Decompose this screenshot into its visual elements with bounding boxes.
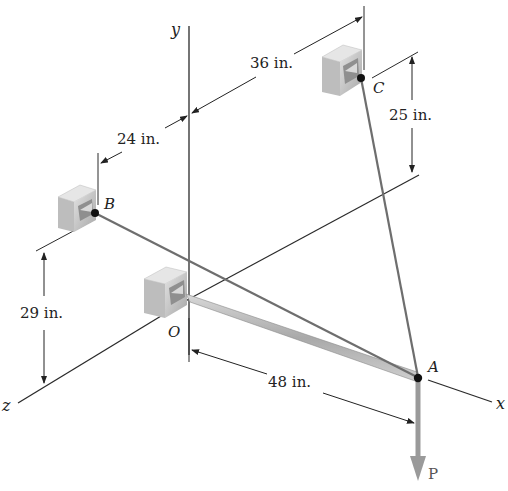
x-axis [428, 380, 492, 402]
point-a [414, 374, 422, 382]
dim-label-29: 29 in. [20, 306, 63, 321]
dim-36-line-a [192, 77, 256, 113]
dim-label-48: 48 in. [268, 375, 311, 390]
cable-ab [95, 213, 417, 377]
ext-line-c-horiz [372, 52, 418, 78]
axis-label-z: z [2, 398, 10, 414]
point-c [357, 74, 365, 82]
force-label-p: P [428, 467, 438, 482]
boom-oa [186, 294, 418, 382]
point-label-c: C [373, 81, 384, 96]
axis-label-y: y [171, 22, 180, 38]
point-label-a: A [428, 360, 439, 375]
dim-24-line-a [101, 152, 122, 163]
dim-24-line-b [165, 116, 187, 128]
dim-label-25: 25 in. [389, 108, 432, 123]
bracket-b [58, 185, 96, 232]
point-label-b: B [104, 197, 115, 212]
bracket-o [144, 267, 187, 318]
dim-48-line-b [323, 393, 414, 423]
statics-diagram [0, 0, 508, 491]
force-p-arrowhead [410, 456, 426, 481]
point-label-o: O [168, 325, 180, 340]
dim-48-line-a [192, 350, 267, 374]
axis-label-x: x [496, 396, 505, 412]
dim-label-24: 24 in. [117, 132, 160, 147]
bracket-c [322, 45, 362, 96]
wall-base-line [189, 175, 419, 299]
point-b [91, 209, 99, 217]
dim-label-36: 36 in. [250, 56, 293, 71]
